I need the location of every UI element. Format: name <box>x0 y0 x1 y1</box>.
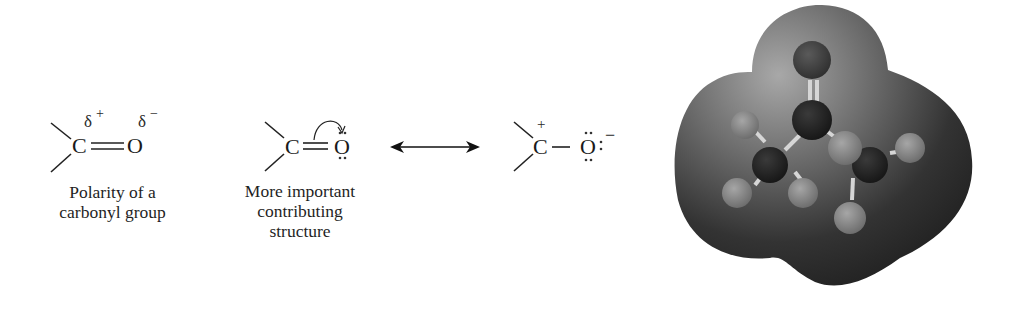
hydrogen-ball <box>722 178 752 208</box>
hydrogen-ball <box>834 202 866 234</box>
electrostatic-potential-map <box>0 0 1020 309</box>
methyl-carbon-ball-left <box>752 147 788 183</box>
hydrogen-ball <box>731 111 759 139</box>
carbonyl-carbon-ball <box>792 100 832 140</box>
oxygen-atom-ball <box>793 41 831 79</box>
hydrogen-ball <box>895 133 925 163</box>
hydrogen-ball <box>788 178 818 208</box>
hydrogen-ball <box>828 131 862 165</box>
